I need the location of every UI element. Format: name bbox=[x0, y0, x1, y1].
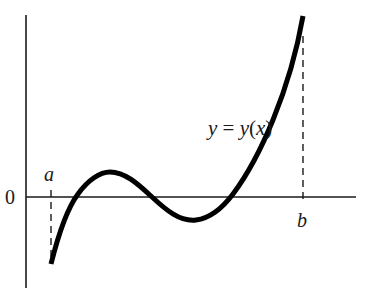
diagram-canvas: 0 a b y = y(x) bbox=[0, 0, 367, 300]
endpoint-a-label: a bbox=[44, 163, 54, 185]
endpoint-b-label: b bbox=[297, 209, 307, 231]
curve-label-rparen: ) bbox=[265, 116, 272, 140]
curve-label-y: y bbox=[206, 116, 218, 140]
function-curve bbox=[51, 16, 303, 264]
curve-label-eq: = bbox=[217, 116, 239, 140]
curve-label-fn: y bbox=[238, 116, 250, 140]
origin-label: 0 bbox=[5, 186, 15, 208]
curve-label: y = y(x) bbox=[206, 116, 272, 140]
curve-label-lparen: ( bbox=[249, 116, 256, 140]
